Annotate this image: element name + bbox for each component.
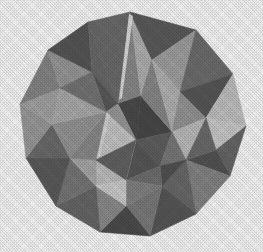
stellated-polyhedron-illustration	[0, 0, 263, 252]
figure-container: Stellated polyhedron	[0, 0, 263, 252]
